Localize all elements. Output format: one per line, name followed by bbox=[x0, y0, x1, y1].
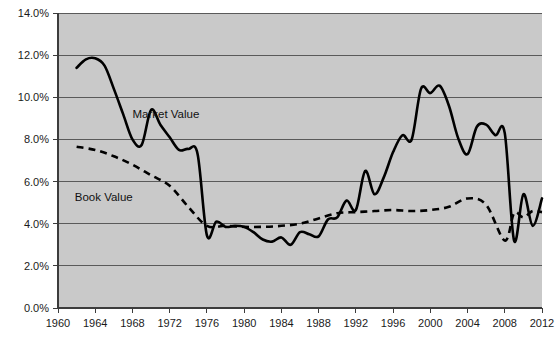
y-tick-label: 6.0% bbox=[24, 176, 49, 188]
x-tick-label: 2008 bbox=[493, 317, 517, 329]
book-value-label: Book Value bbox=[75, 191, 133, 203]
x-tick-label: 2000 bbox=[418, 317, 442, 329]
y-tick-label: 0.0% bbox=[24, 302, 49, 314]
y-tick-label: 2.0% bbox=[24, 260, 49, 272]
x-tick-label: 1976 bbox=[195, 317, 219, 329]
x-tick-label: 2012 bbox=[530, 317, 554, 329]
x-tick-label: 1968 bbox=[120, 317, 144, 329]
x-axis-ticks-group bbox=[58, 308, 542, 313]
y-tick-label: 8.0% bbox=[24, 133, 49, 145]
y-tick-label: 4.0% bbox=[24, 218, 49, 230]
x-axis-labels-group: 1960196419681972197619801984198819921996… bbox=[46, 317, 554, 329]
x-tick-label: 1972 bbox=[157, 317, 181, 329]
chart-container: 0.0%2.0%4.0%6.0%8.0%10.0%12.0%14.0% 1960… bbox=[0, 0, 557, 337]
x-tick-label: 1992 bbox=[344, 317, 368, 329]
line-chart: 0.0%2.0%4.0%6.0%8.0%10.0%12.0%14.0% 1960… bbox=[0, 0, 557, 337]
x-tick-label: 1988 bbox=[306, 317, 330, 329]
y-tick-label: 12.0% bbox=[18, 49, 49, 61]
y-tick-label: 10.0% bbox=[18, 91, 49, 103]
y-axis-labels-group: 0.0%2.0%4.0%6.0%8.0%10.0%12.0%14.0% bbox=[18, 7, 49, 314]
x-tick-label: 1996 bbox=[381, 317, 405, 329]
x-tick-label: 1960 bbox=[46, 317, 70, 329]
y-tick-label: 14.0% bbox=[18, 7, 49, 19]
x-tick-label: 1980 bbox=[232, 317, 256, 329]
y-axis-ticks-group bbox=[53, 13, 58, 308]
x-tick-label: 2004 bbox=[455, 317, 479, 329]
x-tick-label: 1964 bbox=[83, 317, 107, 329]
plot-background bbox=[58, 13, 542, 308]
x-tick-label: 1984 bbox=[269, 317, 293, 329]
market-value-label: Market Value bbox=[132, 108, 199, 120]
